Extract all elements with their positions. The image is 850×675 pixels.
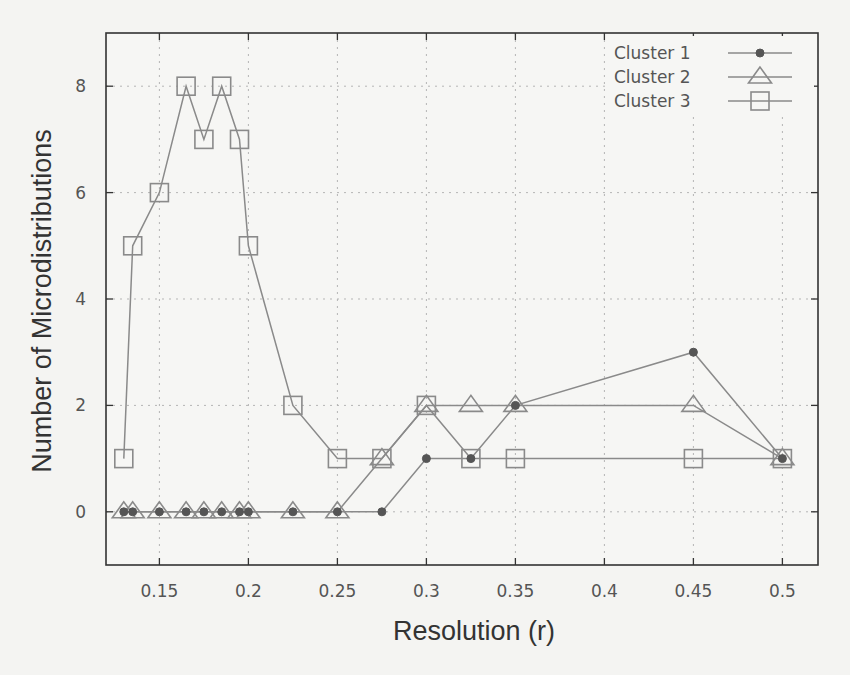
circle-marker-icon <box>218 508 226 516</box>
circle-marker-icon <box>756 49 764 57</box>
circle-marker-icon <box>289 508 297 516</box>
y-tick-label: 4 <box>75 289 86 309</box>
circle-marker-icon <box>333 508 341 516</box>
line-chart-plot: 0.150.20.250.30.350.40.450.502468 Cluste… <box>0 0 850 675</box>
x-tick-label: 0.4 <box>591 581 618 601</box>
chart: 0.150.20.250.30.350.40.450.502468 Cluste… <box>0 0 850 675</box>
x-tick-label: 0.15 <box>140 581 178 601</box>
x-tick-label: 0.45 <box>674 581 712 601</box>
y-tick-label: 0 <box>75 502 86 522</box>
x-tick-label: 0.3 <box>413 581 440 601</box>
circle-marker-icon <box>689 348 697 356</box>
x-tick-label: 0.2 <box>235 581 262 601</box>
circle-marker-icon <box>467 455 475 463</box>
legend-item-label: Cluster 3 <box>614 91 691 111</box>
y-tick-label: 6 <box>75 183 86 203</box>
x-tick-label: 0.35 <box>496 581 534 601</box>
y-axis-label: Number of Microdistributions <box>27 129 57 473</box>
circle-marker-icon <box>511 401 519 409</box>
circle-marker-icon <box>778 455 786 463</box>
y-tick-label: 8 <box>75 76 86 96</box>
circle-marker-icon <box>200 508 208 516</box>
circle-marker-icon <box>120 508 128 516</box>
x-axis-label: Resolution (r) <box>393 616 555 646</box>
circle-marker-icon <box>236 508 244 516</box>
legend-item-label: Cluster 1 <box>614 43 691 63</box>
circle-marker-icon <box>422 455 430 463</box>
circle-marker-icon <box>244 508 252 516</box>
x-tick-label: 0.25 <box>318 581 356 601</box>
circle-marker-icon <box>129 508 137 516</box>
y-tick-label: 2 <box>75 395 86 415</box>
circle-marker-icon <box>155 508 163 516</box>
x-tick-label: 0.5 <box>769 581 796 601</box>
circle-marker-icon <box>182 508 190 516</box>
legend-item-label: Cluster 2 <box>614 67 691 87</box>
legend: Cluster 1Cluster 2Cluster 3 <box>606 36 814 112</box>
circle-marker-icon <box>378 508 386 516</box>
